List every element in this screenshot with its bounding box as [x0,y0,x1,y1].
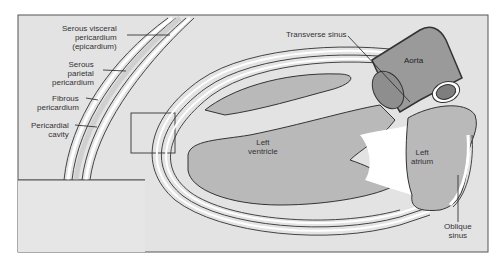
label-line: (epicardium) [62,42,117,51]
label-left-ventricle: Left ventricle [248,138,278,156]
label-line: parietal [52,69,94,78]
label-fibrous: Fibrous pericardium [37,94,79,112]
label-line: cavity [31,130,69,139]
label-line: ventricle [248,147,278,156]
label-serous-visceral: Serous visceral pericardium (epicardium) [62,24,117,51]
label-serous-parietal: Serous parietal pericardium [52,60,94,87]
label-line: pericardium [52,78,94,87]
label-pericardial-cavity: Pericardial cavity [31,121,69,139]
label-line: Serous visceral [62,24,117,33]
label-line: Serous [52,60,94,69]
label-line: Left [248,138,278,147]
label-line: pericardium [37,103,79,112]
label-line: sinus [444,231,472,240]
label-line: Fibrous [37,94,79,103]
label-line: Pericardial [31,121,69,130]
label-line: pericardium [62,33,117,42]
label-left-atrium: Left atrium [411,148,433,166]
label-aorta: Aorta [404,56,423,65]
label-line: atrium [411,157,433,166]
label-line: Oblique [444,222,472,231]
label-transverse-sinus: Transverse sinus [286,30,347,39]
label-oblique-sinus: Oblique sinus [444,222,472,240]
label-line: Left [411,148,433,157]
